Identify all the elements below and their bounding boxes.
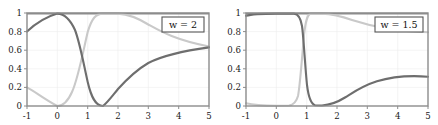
x-tick-2: 1 — [85, 111, 90, 121]
y-tick-0: 0 — [17, 101, 22, 111]
x-tick-3: 2 — [115, 111, 120, 121]
x-tick-3: 2 — [334, 111, 339, 121]
x-tick-6: 5 — [206, 111, 211, 121]
chart-svg-left: 0 0.2 0.4 0.6 0.8 1 -1 0 1 2 3 4 — [0, 0, 219, 125]
y-tick-0: 0 — [236, 101, 241, 111]
y-tick-4: 0.8 — [227, 27, 241, 37]
x-tick-6: 5 — [425, 111, 430, 121]
legend-label: w = 2 — [169, 19, 197, 30]
x-axis-ticks-left: -1 0 1 2 3 4 5 — [23, 106, 212, 121]
y-tick-3: 0.6 — [8, 45, 22, 55]
x-tick-5: 4 — [395, 111, 401, 121]
x-tick-4: 3 — [146, 111, 151, 121]
x-tick-2: 1 — [304, 111, 309, 121]
chart-svg-right: 0 0.2 0.4 0.6 0.8 1 -1 0 1 2 3 4 — [219, 0, 438, 125]
y-tick-2: 0.4 — [8, 64, 22, 74]
x-tick-0: -1 — [242, 111, 250, 121]
legend-box-left: w = 2 — [162, 17, 204, 32]
legend-box-right: w = 1.5 — [375, 17, 423, 32]
x-axis-ticks-right: -1 0 1 2 3 4 5 — [242, 106, 431, 121]
x-tick-4: 3 — [365, 111, 370, 121]
x-tick-0: -1 — [23, 111, 31, 121]
y-tick-2: 0.4 — [227, 64, 241, 74]
y-axis-ticks-right: 0 0.2 0.4 0.6 0.8 1 — [227, 8, 246, 111]
x-tick-1: 0 — [55, 111, 60, 121]
y-axis-ticks-left: 0 0.2 0.4 0.6 0.8 1 — [8, 8, 27, 111]
y-tick-5: 1 — [236, 8, 241, 18]
y-tick-3: 0.6 — [227, 45, 241, 55]
y-tick-1: 0.2 — [8, 82, 22, 92]
chart-panel-right: 0 0.2 0.4 0.6 0.8 1 -1 0 1 2 3 4 — [219, 0, 438, 125]
y-tick-5: 1 — [17, 8, 22, 18]
y-tick-1: 0.2 — [227, 82, 241, 92]
figure-container: 0 0.2 0.4 0.6 0.8 1 -1 0 1 2 3 4 — [0, 0, 438, 125]
legend-label: w = 1.5 — [380, 19, 417, 30]
x-tick-1: 0 — [274, 111, 279, 121]
x-tick-5: 4 — [176, 111, 182, 121]
chart-panel-left: 0 0.2 0.4 0.6 0.8 1 -1 0 1 2 3 4 — [0, 0, 219, 125]
y-tick-4: 0.8 — [8, 27, 22, 37]
